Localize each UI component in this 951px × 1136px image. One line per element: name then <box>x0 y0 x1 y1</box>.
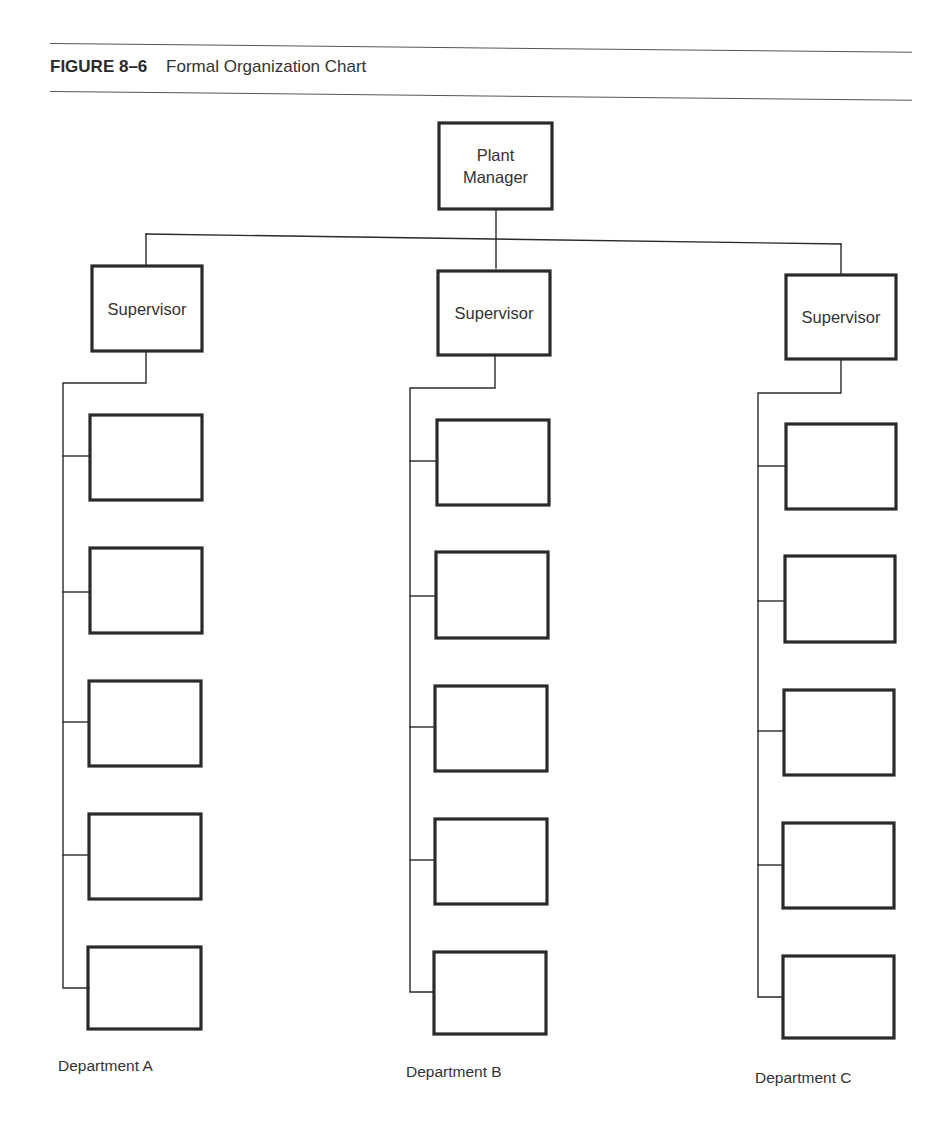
dept-b-box-3 <box>435 686 547 771</box>
department-a-label: Department A <box>58 1057 153 1075</box>
dept-a-box-4 <box>89 814 201 899</box>
dept-b-box-4 <box>435 819 547 904</box>
dept-b-spine <box>410 355 495 992</box>
dept-b-box-2 <box>436 552 548 638</box>
dept-a-box-2 <box>90 548 202 633</box>
supervisor-c-label: Supervisor <box>788 277 894 357</box>
plant-manager-label-line1: Plant <box>477 144 515 166</box>
dept-a-spine <box>63 351 146 988</box>
supervisor-a-label: Supervisor <box>94 268 200 349</box>
department-b-label: Department B <box>406 1063 502 1081</box>
dept-a-box-1 <box>90 415 202 500</box>
dept-c-box-4 <box>783 823 894 908</box>
dept-c-box-5 <box>783 956 894 1038</box>
plant-manager-label: Plant Manager <box>441 125 550 207</box>
dept-a-box-5 <box>88 947 201 1029</box>
dept-c-box-3 <box>784 690 894 775</box>
plant-manager-label-line2: Manager <box>463 166 528 188</box>
top-distribution-bar <box>146 234 841 244</box>
dept-b-box-5 <box>434 952 546 1034</box>
dept-c-spine <box>758 359 841 997</box>
dept-c-box-1 <box>786 424 896 509</box>
dept-a-box-3 <box>89 681 201 766</box>
department-c-label: Department C <box>755 1069 851 1087</box>
dept-c-box-2 <box>785 556 895 642</box>
dept-b-box-1 <box>437 420 549 505</box>
supervisor-b-label: Supervisor <box>440 273 548 353</box>
